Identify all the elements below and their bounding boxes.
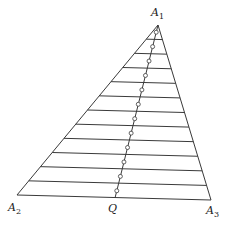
midpoint-circle-marker (133, 117, 137, 121)
midpoint-circle-marker (118, 174, 122, 178)
strip-line (52, 153, 198, 157)
strip-line (29, 181, 207, 186)
midpoint-circle-marker (122, 160, 126, 164)
midpoint-circle-marker (129, 131, 133, 135)
strip-line (41, 167, 203, 171)
midpoint-circle-marker (154, 30, 158, 34)
label-a1: A1 (150, 6, 164, 21)
label-q: Q (108, 202, 117, 215)
label-a2: A2 (7, 201, 21, 216)
midpoint-circle-marker (126, 146, 130, 150)
midpoint-circle-marker (140, 88, 144, 92)
midpoint-circle-marker (115, 189, 119, 193)
midpoint-circle-marker (151, 45, 155, 49)
triangle-diagram: A1 A2 A3 Q (0, 0, 228, 225)
label-a3: A3 (205, 204, 219, 219)
midpoint-circle-marker (136, 102, 140, 106)
midpoint-circle-marker (143, 73, 147, 77)
midpoint-circle-marker (147, 59, 151, 63)
parallel-strip-lines (29, 39, 207, 185)
